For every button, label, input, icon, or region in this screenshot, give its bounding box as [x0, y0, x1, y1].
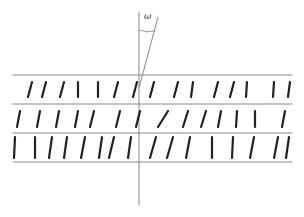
molecule-segment: [282, 111, 285, 127]
omega-angle-label: ω: [144, 11, 151, 21]
molecule-segment: [150, 82, 154, 97]
molecule-segment: [133, 82, 137, 97]
molecule-segment: [56, 111, 59, 127]
molecule-segment: [246, 82, 247, 97]
molecule-segment: [114, 82, 118, 97]
molecule-segment: [75, 111, 78, 127]
molecule-segment: [236, 111, 237, 127]
molecule-segment: [218, 111, 221, 127]
molecule-segment: [230, 82, 234, 97]
molecule-segment: [109, 137, 114, 158]
molecule-segment: [158, 111, 168, 127]
molecule-segment: [37, 111, 40, 127]
molecule-segment: [201, 111, 206, 127]
molecule-segment: [81, 137, 85, 158]
molecule-segment: [64, 137, 67, 158]
molecule-segment: [167, 137, 173, 158]
molecule-segment: [90, 111, 94, 127]
molecule-segment: [274, 137, 278, 158]
molecule-segment: [183, 111, 188, 127]
molecule-segment: [150, 137, 156, 158]
molecule-segment: [214, 82, 218, 97]
molecule-segment: [191, 82, 193, 97]
molecule-segment: [186, 137, 190, 158]
molecule-segment: [99, 137, 102, 158]
molecule-segment: [288, 82, 290, 97]
diagram-canvas: ω: [0, 0, 304, 217]
molecule-segment: [174, 82, 178, 97]
molecule-segment: [17, 111, 20, 127]
molecule-segment: [42, 82, 46, 97]
molecule-segment: [273, 82, 274, 97]
molecule-segment: [28, 82, 32, 97]
molecule-segment: [232, 137, 233, 158]
molecule-segment: [250, 137, 254, 158]
molecule-segment: [14, 137, 15, 158]
molecule-segment: [286, 137, 289, 158]
molecule-segment: [128, 137, 131, 158]
molecule-segment: [60, 82, 64, 97]
molecule-segment: [116, 111, 120, 127]
angle-arc: [139, 30, 155, 32]
layer-orientation-diagram: [0, 0, 304, 217]
molecule-segment: [49, 137, 52, 158]
director-line: [139, 17, 158, 88]
